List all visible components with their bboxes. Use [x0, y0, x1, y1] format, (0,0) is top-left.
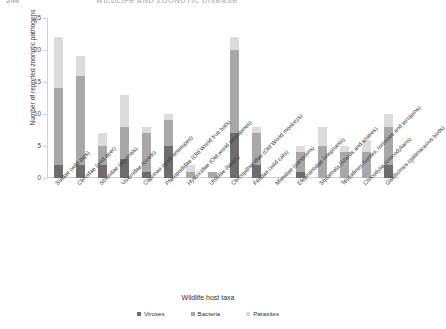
legend-label: Bacteria — [198, 310, 221, 317]
legend-label: Viruses — [144, 310, 165, 317]
bar-group[interactable] — [54, 37, 63, 178]
running-head: WILDLIFE AND ZOONOTIC DISEASE — [96, 0, 238, 5]
page-folio: 246 — [6, 0, 19, 5]
legend-item-parasites[interactable]: Parasites — [246, 310, 279, 317]
y-tick-label-10: 10 — [21, 111, 41, 117]
bar-segment-bacteria[interactable] — [164, 120, 173, 146]
y-tick-mark-0 — [43, 178, 47, 179]
page-header: 246 WILDLIFE AND ZOONOTIC DISEASE — [0, 0, 416, 12]
y-tick-label-15: 15 — [21, 79, 41, 85]
legend-swatch-icon — [191, 312, 195, 316]
x-axis-category-labels: Suidae (wild pigs)Cervidae (wild deer)Sc… — [47, 180, 407, 272]
x-axis-title: Wildlife host taxa — [0, 294, 416, 301]
bar-segment-parasites[interactable] — [318, 127, 327, 146]
bar-segment-parasites[interactable] — [120, 95, 129, 127]
stacked-bar-chart-figure: Number of reported zoonotic pathogens 05… — [0, 12, 416, 329]
bar-segment-parasites[interactable] — [54, 37, 63, 88]
bar-segment-parasites[interactable] — [76, 56, 85, 75]
bar-segment-parasites[interactable] — [230, 37, 239, 50]
bar-group[interactable] — [164, 114, 173, 178]
bar-group[interactable] — [384, 114, 393, 178]
legend-label: Parasites — [253, 310, 279, 317]
chart-legend: VirusesBacteriaParasites — [0, 310, 416, 317]
legend-swatch-icon — [246, 312, 250, 316]
y-tick-label-25: 25 — [21, 15, 41, 21]
legend-item-viruses[interactable]: Viruses — [137, 310, 165, 317]
y-tick-label-5: 5 — [21, 143, 41, 149]
y-tick-label-0: 0 — [21, 175, 41, 181]
bar-segment-bacteria[interactable] — [54, 88, 63, 165]
bar-segment-parasites[interactable] — [384, 114, 393, 127]
y-tick-label-20: 20 — [21, 47, 41, 53]
legend-swatch-icon — [137, 312, 141, 316]
bar-segment-bacteria[interactable] — [230, 50, 239, 133]
bar-segment-parasites[interactable] — [98, 133, 107, 146]
legend-item-bacteria[interactable]: Bacteria — [191, 310, 221, 317]
y-axis-title: Number of reported zoonotic pathogens — [29, 0, 36, 148]
